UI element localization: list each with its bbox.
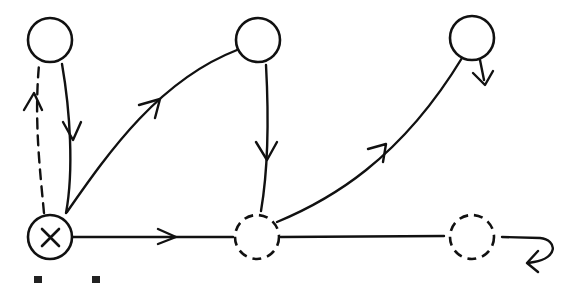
cropped-text-fragment <box>34 276 42 283</box>
edge-bottom-middle-to-top-right <box>277 58 462 222</box>
edge-top-middle-to-bottom-middle <box>256 65 277 211</box>
node-top-middle <box>236 18 280 62</box>
state-diagram <box>0 0 571 283</box>
arrow-up-icon <box>24 93 42 110</box>
node-top-right <box>450 16 494 60</box>
node-bottom-middle-dashed <box>235 215 279 259</box>
edge-bottom-left-to-top-left-dashed <box>24 65 44 213</box>
node-top-left <box>28 18 72 62</box>
arrow-forward-icon <box>368 144 386 162</box>
edge-bottom-right-curl <box>502 237 553 272</box>
edge-bottom-left-to-top-middle <box>67 50 237 212</box>
node-bottom-right-dashed <box>450 215 494 259</box>
edge-top-left-to-bottom-left <box>62 64 81 213</box>
arrow-down-icon <box>63 122 81 140</box>
edge-top-right-outgoing <box>473 60 493 85</box>
edge-bottom-left-to-bottom-middle <box>73 229 233 244</box>
cropped-text-fragment <box>92 276 100 283</box>
node-bottom-left-x <box>28 215 72 259</box>
edge-bottom-middle-to-bottom-right <box>281 236 444 237</box>
